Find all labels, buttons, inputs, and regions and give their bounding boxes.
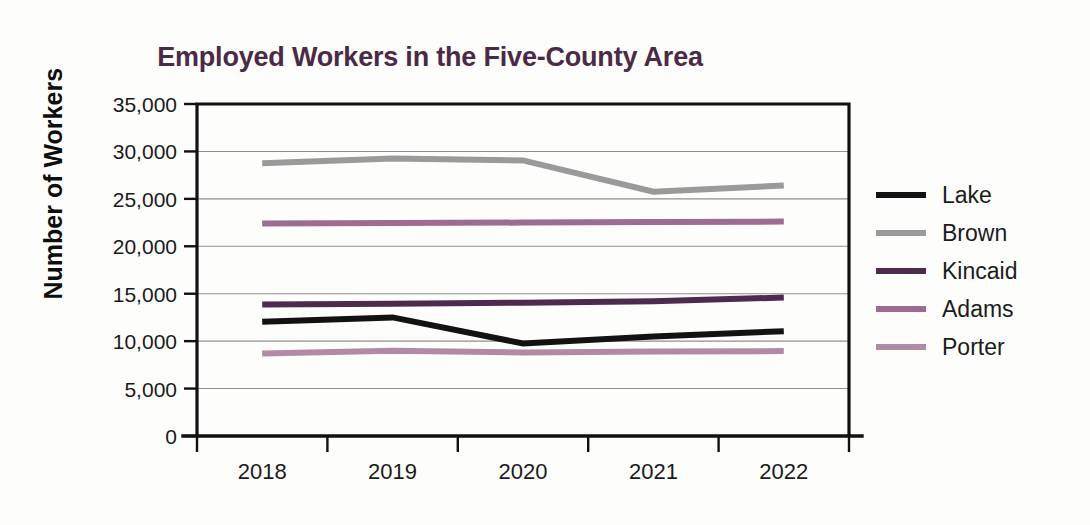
legend-item-kincaid[interactable]: Kincaid: [876, 252, 1086, 290]
x-axis-ticks: [197, 436, 849, 452]
y-axis-tick-label: 35,000: [113, 93, 177, 116]
y-axis-tick-labels: 35,00030,00025,00020,00015,00010,0005,00…: [113, 93, 177, 448]
y-axis-tick-label: 30,000: [113, 140, 177, 163]
series-line-porter: [262, 351, 784, 354]
x-axis-tick-labels: 20182019202020212022: [238, 459, 809, 484]
chart-legend: LakeBrownKincaidAdamsPorter: [876, 176, 1086, 366]
axis-lines: [183, 104, 862, 436]
plot-area-border: [197, 104, 849, 436]
y-axis-tick-label: 15,000: [113, 283, 177, 306]
x-axis-tick-label: 2020: [499, 459, 548, 484]
legend-item-brown[interactable]: Brown: [876, 214, 1086, 252]
legend-item-lake[interactable]: Lake: [876, 176, 1086, 214]
series-line-brown: [262, 159, 784, 192]
chart-page: Employed Workers in the Five-County Area…: [0, 0, 1090, 525]
legend-swatch-icon: [876, 344, 926, 350]
legend-item-label: Brown: [942, 220, 1007, 247]
legend-swatch-icon: [876, 230, 926, 236]
legend-swatch-icon: [876, 306, 926, 312]
series-line-adams: [262, 222, 784, 224]
legend-item-adams[interactable]: Adams: [876, 290, 1086, 328]
x-axis-tick-label: 2022: [759, 459, 808, 484]
y-axis-ticks: [184, 104, 197, 436]
x-axis-tick-label: 2021: [629, 459, 678, 484]
data-series: [262, 159, 784, 354]
y-axis-tick-label: 5,000: [124, 378, 177, 401]
y-axis-tick-label: 0: [165, 425, 177, 448]
x-axis-tick-label: 2018: [238, 459, 287, 484]
series-line-kincaid: [262, 298, 784, 305]
series-line-lake: [262, 317, 784, 343]
legend-item-porter[interactable]: Porter: [876, 328, 1086, 366]
legend-item-label: Adams: [942, 296, 1014, 323]
legend-item-label: Kincaid: [942, 258, 1017, 285]
x-axis-tick-label: 2019: [368, 459, 417, 484]
legend-item-label: Porter: [942, 334, 1005, 361]
y-axis-tick-label: 20,000: [113, 235, 177, 258]
legend-item-label: Lake: [942, 182, 992, 209]
legend-swatch-icon: [876, 192, 926, 198]
legend-swatch-icon: [876, 268, 926, 274]
y-axis-tick-label: 10,000: [113, 330, 177, 353]
y-axis-tick-label: 25,000: [113, 188, 177, 211]
